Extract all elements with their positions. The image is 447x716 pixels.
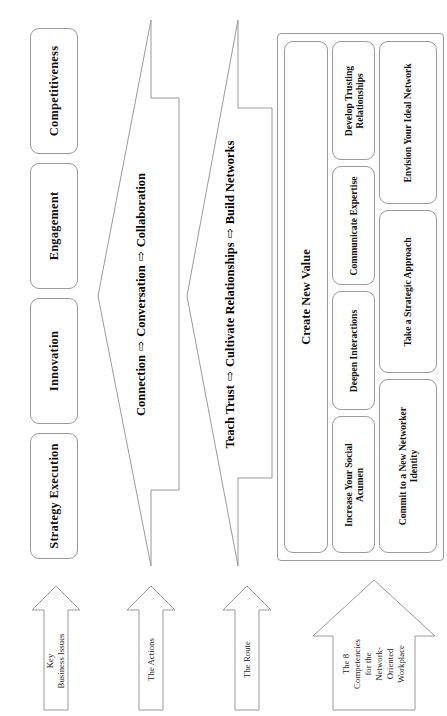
competency-label: Increase Your Social Acumen: [342, 431, 364, 539]
competency-card[interactable]: Take a Strategic Approach: [379, 210, 437, 373]
competency-label: Communicate Expertise: [348, 172, 359, 280]
competency-card[interactable]: Commit to a New Networker Identity: [379, 379, 437, 553]
competency-card[interactable]: Increase Your Social Acumen: [332, 416, 375, 553]
diagram-canvas: Competitiveness Engagement Innovation St…: [0, 0, 447, 716]
create-new-value-card[interactable]: Create New Value: [284, 41, 328, 553]
competency-label: Envision Your Ideal Network: [402, 48, 413, 198]
route-part-1: Teach Trust: [223, 385, 237, 448]
legend-arrow-the-route[interactable]: The Route: [221, 584, 273, 712]
route-label: Teach Trust⇨Cultivate Relationships⇨Buil…: [223, 35, 238, 555]
legend-arrow-key-business-issues[interactable]: Key Business Issues: [30, 584, 82, 712]
create-new-value-label: Create New Value: [299, 249, 313, 345]
arrow-right-icon: ⇨: [223, 367, 237, 385]
legend-label: The Actions: [146, 612, 157, 706]
competency-card[interactable]: Communicate Expertise: [332, 166, 375, 285]
legend-arrow-the-competencies[interactable]: The 8 Competencies for the Network- Orie…: [311, 578, 437, 712]
legend-label: The Route: [242, 612, 253, 706]
competency-label: Develop Trusting Relationships: [342, 47, 364, 155]
legend-label: Key Business Issues: [45, 614, 67, 708]
arrow-right-icon: ⇨: [223, 224, 237, 242]
competency-label: Take a Strategic Approach: [402, 217, 413, 367]
route-part-2: Cultivate Relationships: [223, 242, 237, 367]
competency-card[interactable]: Envision Your Ideal Network: [379, 41, 437, 204]
legend-label: The 8 Competencies for the Network- Orie…: [341, 620, 407, 708]
competency-card[interactable]: Develop Trusting Relationships: [332, 41, 375, 160]
competency-label: Deepen Interactions: [348, 297, 359, 405]
competency-card[interactable]: Deepen Interactions: [332, 291, 375, 410]
route-part-3: Build Networks: [223, 141, 237, 225]
competency-label: Commit to a New Networker Identity: [397, 391, 419, 541]
legend-arrow-the-actions[interactable]: The Actions: [125, 584, 177, 712]
